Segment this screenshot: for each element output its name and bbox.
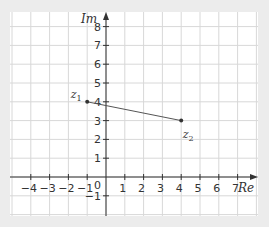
point-z1 (85, 100, 89, 104)
y-tick-label: 4 (94, 96, 101, 109)
y-tick-label: 7 (94, 39, 101, 52)
x-tick-label: −2 (58, 182, 74, 195)
origin-label: 0 (94, 179, 101, 192)
x-tick-label: 4 (176, 182, 183, 195)
y-tick-label: 6 (94, 58, 101, 71)
x-tick-label: −3 (39, 182, 55, 195)
complex-plane-chart: −4−3−2−11234567−1123456780ReIm z1z2 (0, 0, 269, 227)
x-tick-label: 5 (195, 182, 202, 195)
x-tick-label: 3 (157, 182, 164, 195)
x-tick-label: 6 (213, 182, 220, 195)
y-axis-label: Im (80, 12, 97, 26)
y-tick-label: 2 (94, 133, 101, 146)
y-tick-label: 3 (94, 115, 101, 128)
y-tick-label: 5 (94, 77, 101, 90)
x-axis-label: Re (237, 181, 254, 195)
point-z2 (179, 119, 183, 123)
x-tick-label: 2 (138, 182, 145, 195)
y-tick-label: 1 (94, 152, 101, 165)
x-tick-label: 1 (119, 182, 126, 195)
x-tick-label: −4 (21, 182, 37, 195)
